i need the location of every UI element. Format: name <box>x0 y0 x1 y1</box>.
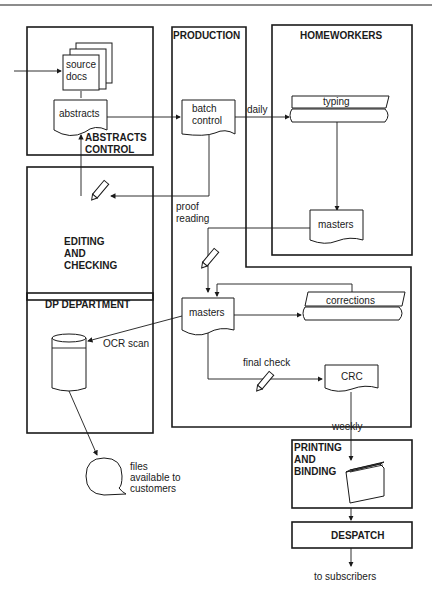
editing-box <box>27 167 153 300</box>
svg-text:corrections: corrections <box>326 295 375 306</box>
svg-text:batch: batch <box>192 103 216 114</box>
daily-label: daily <box>247 104 268 115</box>
proof-label-2: reading <box>176 213 209 224</box>
files-node <box>86 458 126 495</box>
editing-title-3: CHECKING <box>64 260 118 271</box>
homeworkers-title: HOMEWORKERS <box>300 30 383 41</box>
svg-text:docs: docs <box>66 71 87 82</box>
svg-text:control: control <box>192 115 222 126</box>
abstracts-control-title-2: CONTROL <box>85 144 134 155</box>
svg-text:masters: masters <box>318 219 354 230</box>
book-icon <box>346 462 384 503</box>
editing-title-2: AND <box>64 248 86 259</box>
abstracts-node: abstracts <box>54 100 107 136</box>
pencil-icon <box>199 248 218 269</box>
final-check-label: final check <box>243 357 291 368</box>
svg-text:typing: typing <box>323 96 350 107</box>
typing-node: typing <box>290 96 389 122</box>
dp-department-title: DP DEPARTMENT <box>45 299 130 310</box>
editing-title-1: EDITING <box>64 236 105 247</box>
source-docs-node: source docs <box>63 43 112 90</box>
files-label-3: customers <box>130 483 176 494</box>
abstracts-control-title: ABSTRACTS <box>85 132 147 143</box>
db-to-files <box>69 391 97 455</box>
svg-text:CRC: CRC <box>341 371 363 382</box>
printing-title-3: BINDING <box>294 466 336 477</box>
pencil-icon <box>254 371 273 392</box>
production-title: PRODUCTION <box>173 30 240 41</box>
weekly-label: weekly <box>331 421 363 432</box>
to-subscribers-label: to subscribers <box>314 571 376 582</box>
files-label-1: files <box>130 461 148 472</box>
despatch-title: DESPATCH <box>331 530 385 541</box>
proof-label-1: proof <box>176 201 199 212</box>
masters-production-node: masters <box>182 298 234 335</box>
svg-text:masters: masters <box>189 307 225 318</box>
database-icon <box>52 334 86 391</box>
batch-control-node: batch control <box>182 100 235 135</box>
pencil-icon <box>89 180 108 201</box>
corrections-node: corrections <box>303 292 405 320</box>
dp-department-box <box>27 293 153 433</box>
printing-title-2: AND <box>294 454 316 465</box>
files-label-2: available to <box>130 472 181 483</box>
masters-to-production <box>208 228 310 292</box>
flow-diagram: ABSTRACTS CONTROL PRODUCTION HOMEWORKERS… <box>0 0 432 595</box>
svg-text:abstracts: abstracts <box>59 108 100 119</box>
masters-homeworkers-node: masters <box>310 210 363 243</box>
crc-node: CRC <box>325 365 378 391</box>
ocr-scan-label: OCR scan <box>103 338 149 349</box>
masters-to-final-check <box>208 333 272 379</box>
svg-text:source: source <box>66 59 96 70</box>
printing-title-1: PRINTING <box>294 442 342 453</box>
